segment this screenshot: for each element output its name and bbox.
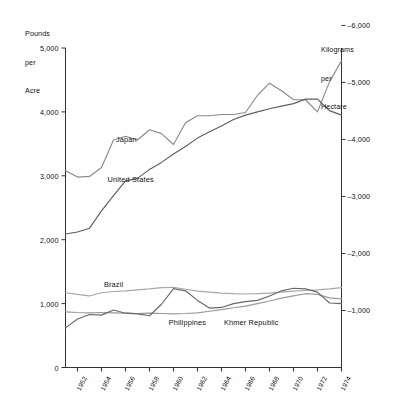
left-axis-title-line-1: Pounds <box>25 29 50 39</box>
series-line-japan <box>66 61 342 177</box>
left-tick-label: 1,000 <box>40 299 59 308</box>
series-label-brazil: Brazil <box>104 280 123 289</box>
left-tick-label: 3,000 <box>40 171 59 180</box>
series-label-philippines: Philippines <box>169 318 206 327</box>
right-tick-label: –4,000 <box>348 135 371 144</box>
left-axis-title: Pounds per Acre <box>25 10 50 115</box>
right-axis-title-line-1: Kilograms <box>321 45 354 55</box>
series-label-united-states: United States <box>108 175 154 184</box>
right-tick-label: –5,000 <box>348 78 371 87</box>
left-tick-label: 5,000 <box>40 44 59 53</box>
left-tick-label: 4,000 <box>40 107 59 116</box>
right-tick-label: –2,000 <box>348 249 371 258</box>
series-line-united-states <box>66 99 342 234</box>
right-tick-label: –3,000 <box>348 192 371 201</box>
right-tick-label: –6,000 <box>348 21 371 30</box>
left-axis-title-line-2: per <box>25 58 50 68</box>
right-axis-title-line-3: Hectare <box>321 102 354 112</box>
left-tick-label: 0 <box>54 363 58 372</box>
left-tick-label: 2,000 <box>40 235 59 244</box>
series-label-khmer-republic: Khmer Republic <box>224 318 279 327</box>
rice-yield-line-chart: Pounds per Acre Kilograms per Hectare 01… <box>0 0 395 404</box>
x-axis-ticks <box>78 368 342 372</box>
right-tick-label: –1,000 <box>348 306 371 315</box>
left-axis-title-line-3: Acre <box>25 86 50 96</box>
left-axis-ticks <box>62 48 66 368</box>
series-label-japan: Japan <box>116 135 137 144</box>
